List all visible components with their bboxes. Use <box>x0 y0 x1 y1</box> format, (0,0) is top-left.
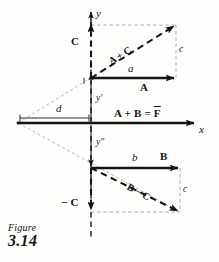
vector-a-plus-b-label: A + B = F <box>114 108 161 119</box>
y-axis-label: y <box>96 8 101 19</box>
figure-3-14: y x C A + C c a A y′ d A + B = F y″ b B … <box>0 0 219 262</box>
figure-caption: Figure 3.14 <box>8 222 37 250</box>
dimension-label-b: b <box>132 152 138 163</box>
vector-minus-c-label: − C <box>61 197 79 208</box>
dimension-label-c-lower: c <box>183 185 187 195</box>
dimension-label-a: a <box>128 63 134 74</box>
a-plus-b-text: A + B = <box>114 107 154 119</box>
dimension-label-y-prime: y′ <box>96 94 102 104</box>
left-vertex-dot <box>17 122 20 125</box>
dimension-d <box>20 115 89 122</box>
vector-b-label: B <box>160 151 168 162</box>
dimension-label-c-upper: c <box>179 45 183 55</box>
x-axis-resultant <box>17 122 194 125</box>
x-axis-label: x <box>199 124 204 135</box>
dimension-label-y-double-prime: y″ <box>96 138 104 148</box>
f-overline: F <box>154 107 161 119</box>
vector-c-label: C <box>71 36 79 47</box>
vector-a-label: A <box>140 82 148 93</box>
caption-number: 3.14 <box>8 232 37 250</box>
dimension-label-d: d <box>56 103 62 114</box>
